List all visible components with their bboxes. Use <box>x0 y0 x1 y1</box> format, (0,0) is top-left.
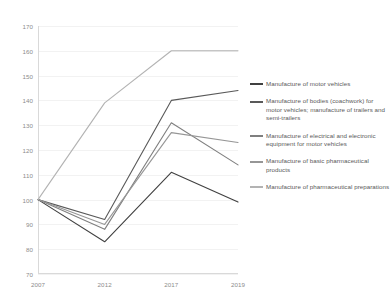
legend-item[interactable]: Manufacture of pharmaceutical preparatio… <box>250 183 390 191</box>
line-chart: 708090100110120130140150160170 200720122… <box>0 0 392 300</box>
plot-area: 708090100110120130140150160170 200720122… <box>38 26 238 274</box>
x-axis-tick-label: 2012 <box>98 281 112 288</box>
legend: Manufacture of motor vehiclesManufacture… <box>250 80 390 201</box>
x-axis-tick-label: 2019 <box>231 281 245 288</box>
y-axis-tick-label: 130 <box>22 122 33 129</box>
y-axis-tick-label: 70 <box>26 271 33 278</box>
y-axis-tick-label: 140 <box>22 97 33 104</box>
legend-item-label: Manufacture of basic pharmaceutical prod… <box>266 157 390 174</box>
y-axis-tick-label: 110 <box>23 171 33 178</box>
legend-line-icon <box>250 83 263 85</box>
legend-item[interactable]: Manufacture of basic pharmaceutical prod… <box>250 157 390 174</box>
y-axis-tick-label: 160 <box>22 47 33 54</box>
series-line <box>38 51 238 200</box>
legend-item[interactable]: Manufacture of motor vehicles <box>250 80 390 88</box>
y-axis-tick-label: 150 <box>22 72 33 79</box>
legend-item-label: Manufacture of motor vehicles <box>266 80 350 88</box>
series-line <box>38 123 238 230</box>
y-axis-tick-label: 100 <box>22 196 33 203</box>
series-line <box>38 90 238 219</box>
legend-line-icon <box>250 135 263 137</box>
y-axis-tick-label: 90 <box>26 221 33 228</box>
legend-item[interactable]: Manufacture of bodies (coachwork) for mo… <box>250 97 390 122</box>
legend-line-icon <box>250 101 263 103</box>
legend-item-label: Manufacture of pharmaceutical preparatio… <box>266 183 389 191</box>
x-axis-tick-label: 2007 <box>31 281 45 288</box>
x-axis-tick-label: 2017 <box>164 281 178 288</box>
series-lines <box>38 26 238 274</box>
legend-line-icon <box>250 161 263 163</box>
legend-item-label: Manufacture of bodies (coachwork) for mo… <box>266 97 390 122</box>
series-line <box>38 172 238 241</box>
y-axis-tick-label: 120 <box>22 147 33 154</box>
legend-line-icon <box>250 186 263 188</box>
legend-item[interactable]: Manufacture of electrical and electronic… <box>250 132 390 149</box>
legend-item-label: Manufacture of electrical and electronic… <box>266 132 390 149</box>
gridline <box>38 274 238 275</box>
y-axis-tick-label: 80 <box>26 246 33 253</box>
y-axis-tick-label: 170 <box>22 23 33 30</box>
